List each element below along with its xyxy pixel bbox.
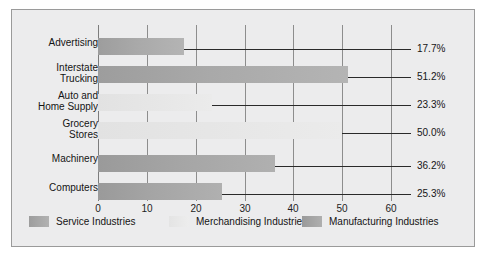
bar-value-label: 51.2% (417, 71, 445, 82)
legend-swatch-icon (302, 216, 322, 227)
bar-value-label: 50.0% (417, 127, 445, 138)
bar-value-label: 36.2% (417, 160, 445, 171)
leader-line (212, 105, 411, 106)
category-label-line: Home Supply (0, 101, 98, 112)
legend-swatch-icon (29, 216, 49, 227)
gridline (196, 25, 197, 201)
category-label: Interstate Trucking (0, 62, 98, 84)
bar-value-label: 17.7% (417, 43, 445, 54)
leader-line (275, 166, 411, 167)
legend-label: Merchandising Industries (196, 216, 307, 227)
x-tick-label: 60 (371, 203, 411, 214)
bar (98, 66, 348, 83)
category-label-line: Grocery (0, 118, 98, 129)
category-label-line: Stores (0, 129, 98, 140)
x-tick-label: 20 (176, 203, 216, 214)
gridline (293, 25, 294, 201)
category-label-line: Interstate (0, 62, 98, 73)
leader-line (184, 49, 411, 50)
legend-item-manufacturing[interactable]: Manufacturing Industries (302, 216, 439, 227)
x-tick-label: 10 (127, 203, 167, 214)
category-label: Grocery Stores (0, 118, 98, 140)
leader-line (222, 194, 411, 195)
category-label-line: Auto and (0, 90, 98, 101)
legend-label: Manufacturing Industries (329, 216, 439, 227)
legend-label: Service Industries (56, 216, 135, 227)
legend-item-merchandising[interactable]: Merchandising Industries (169, 216, 307, 227)
bar-value-label: 23.3% (417, 99, 445, 110)
gridline (245, 25, 246, 201)
bar (98, 122, 342, 139)
legend-swatch-icon (169, 216, 189, 227)
chart-container: Advertising Interstate Trucking Auto and… (11, 9, 475, 247)
plot-area: Advertising Interstate Trucking Auto and… (12, 10, 476, 248)
bar (98, 183, 222, 200)
bar (98, 155, 275, 172)
legend-item-service[interactable]: Service Industries (29, 216, 135, 227)
leader-line (342, 133, 411, 134)
bar (98, 38, 184, 55)
bar-value-label: 25.3% (417, 188, 445, 199)
leader-line (348, 77, 411, 78)
category-label: Machinery (0, 153, 98, 164)
x-tick-label: 30 (225, 203, 265, 214)
gridline (342, 25, 343, 201)
category-axis: Advertising Interstate Trucking Auto and… (12, 10, 98, 210)
category-label-line: Computers (0, 182, 98, 193)
category-label-line: Machinery (0, 153, 98, 164)
category-label: Advertising (0, 37, 98, 48)
chart-legend: Service Industries Merchandising Industr… (12, 216, 476, 240)
gridline (391, 25, 392, 201)
x-tick-label: 50 (322, 203, 362, 214)
category-label: Auto and Home Supply (0, 90, 98, 112)
category-label: Computers (0, 182, 98, 193)
category-label-line: Trucking (0, 73, 98, 84)
x-tick-label: 40 (273, 203, 313, 214)
bar (98, 94, 212, 111)
category-label-line: Advertising (0, 37, 98, 48)
x-tick-label: 0 (78, 203, 118, 214)
